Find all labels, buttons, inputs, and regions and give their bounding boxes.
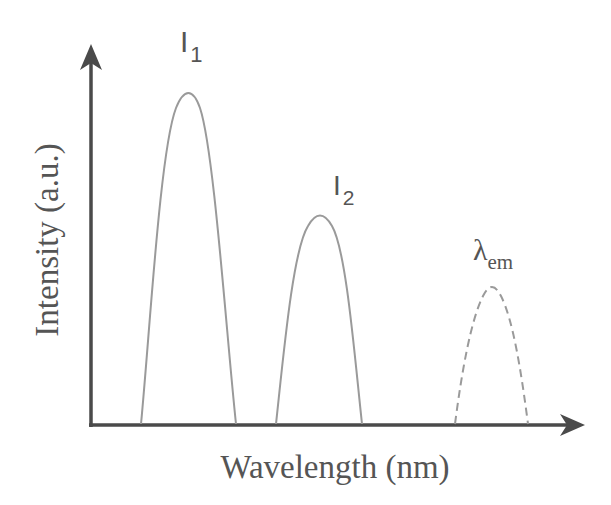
- y-axis-title: Intensity (a.u.): [29, 143, 66, 336]
- peak1-label: I1: [180, 25, 203, 67]
- x-axis-title: Wavelength (nm): [220, 449, 449, 486]
- spectrum-diagram: I1 I2 λem Wavelength (nm) Intensity (a.u…: [0, 0, 611, 505]
- peak-i1: [141, 93, 236, 424]
- peak2-label: I2: [333, 170, 354, 209]
- peak-lambda-em: [455, 287, 528, 424]
- peak-i2: [276, 216, 362, 425]
- peak3-label: λem: [473, 233, 513, 274]
